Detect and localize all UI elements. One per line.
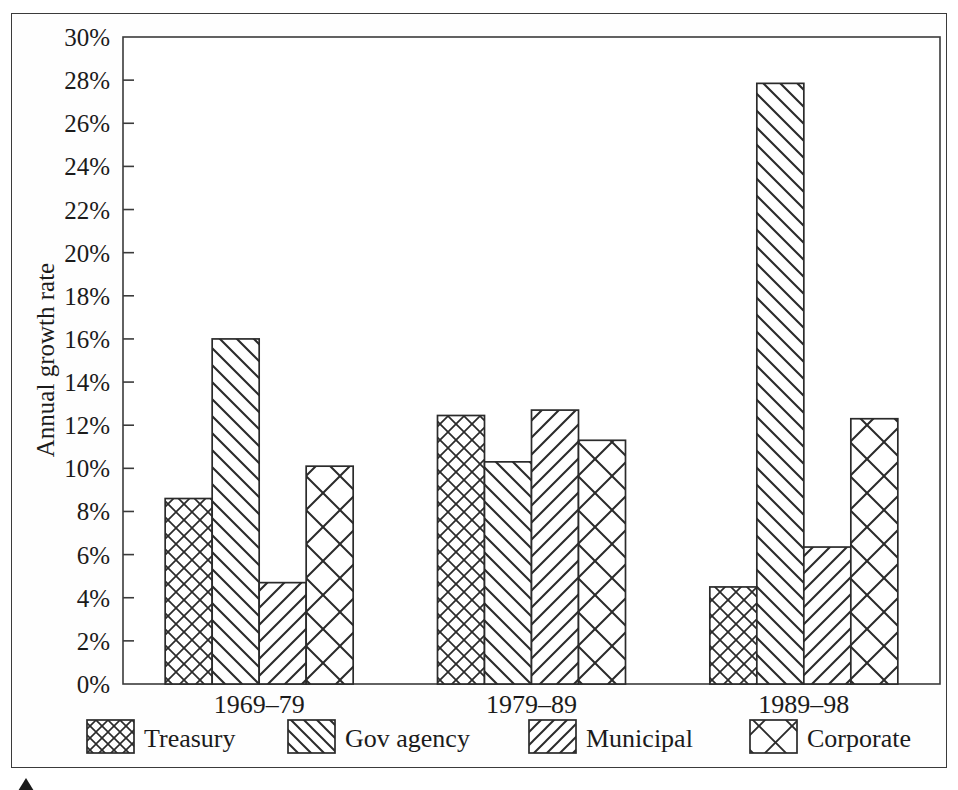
- y-axis-tick-label: 10%: [64, 455, 110, 482]
- legend-swatch-treasury[interactable]: [87, 720, 134, 753]
- y-axis-tick-label: 22%: [64, 197, 110, 224]
- y-axis-tick-label: 8%: [77, 498, 110, 525]
- legend-swatch-gov-agency[interactable]: [288, 720, 335, 753]
- y-axis-tick-label: 18%: [64, 283, 110, 310]
- figure-caption: [18, 776, 718, 790]
- y-axis-tick-label: 30%: [64, 24, 110, 51]
- bar-gov-agency-2: [757, 83, 804, 684]
- legend-swatch-municipal[interactable]: [529, 720, 576, 753]
- legend-label-treasury: Treasury: [144, 724, 235, 753]
- y-axis-tick-label: 0%: [77, 671, 110, 698]
- bar-corporate-1: [579, 440, 626, 684]
- bar-treasury-1: [438, 415, 485, 684]
- caption-marker-icon: [18, 778, 34, 790]
- bar-treasury-0: [165, 499, 212, 684]
- bar-municipal-2: [804, 547, 851, 684]
- y-axis-tick-label: 14%: [64, 369, 110, 396]
- y-axis-tick-label: 24%: [64, 153, 110, 180]
- y-axis-tick-label: 2%: [77, 628, 110, 655]
- y-axis-tick-label: 16%: [64, 326, 110, 353]
- x-axis-category-label: 1979–89: [486, 690, 577, 719]
- chart-legend: TreasuryGov agencyMunicipalCorporate: [87, 720, 911, 753]
- y-axis-tick-label: 4%: [77, 585, 110, 612]
- bar-gov-agency-0: [212, 339, 259, 684]
- legend-label-gov-agency: Gov agency: [345, 724, 470, 753]
- bar-gov-agency-1: [485, 462, 532, 684]
- y-axis-title: Annual growth rate: [32, 263, 59, 457]
- y-axis-tick-label: 20%: [64, 240, 110, 267]
- x-axis: 1969–791979–891989–98: [214, 690, 850, 719]
- bar-chart: 0%2%4%6%8%10%12%14%16%18%20%22%24%26%28%…: [0, 0, 958, 790]
- y-axis-tick-label: 6%: [77, 542, 110, 569]
- bar-corporate-0: [306, 466, 353, 684]
- y-axis-tick-label: 26%: [64, 110, 110, 137]
- bar-corporate-2: [851, 419, 898, 684]
- bar-municipal-0: [259, 583, 306, 684]
- legend-swatch-corporate[interactable]: [750, 720, 797, 753]
- bar-treasury-2: [710, 587, 757, 684]
- y-axis-tick-label: 12%: [64, 412, 110, 439]
- legend-label-municipal: Municipal: [586, 724, 693, 753]
- figure-page: 0%2%4%6%8%10%12%14%16%18%20%22%24%26%28%…: [0, 0, 958, 790]
- x-axis-category-label: 1969–79: [214, 690, 305, 719]
- bar-municipal-1: [532, 410, 579, 684]
- x-axis-category-label: 1989–98: [758, 690, 849, 719]
- legend-label-corporate: Corporate: [807, 724, 911, 753]
- y-axis-tick-label: 28%: [64, 67, 110, 94]
